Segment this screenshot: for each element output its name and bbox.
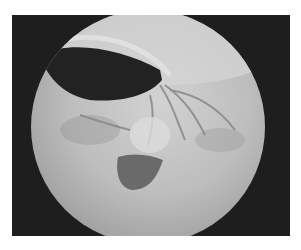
endoscopic-image [0, 0, 301, 250]
